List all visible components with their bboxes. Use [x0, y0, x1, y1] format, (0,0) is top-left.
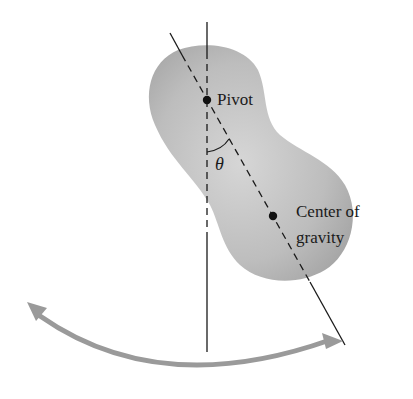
pivot-label: Pivot — [217, 90, 253, 109]
swing-arrow — [27, 302, 343, 365]
cog-label-line2: gravity — [296, 228, 345, 247]
pivot-point — [203, 96, 211, 104]
cog-label-line1: Center of — [296, 202, 360, 221]
physical-pendulum-diagram: Pivot θ Center of gravity — [0, 0, 413, 399]
theta-label: θ — [215, 154, 224, 174]
center-of-gravity-point — [269, 212, 277, 220]
